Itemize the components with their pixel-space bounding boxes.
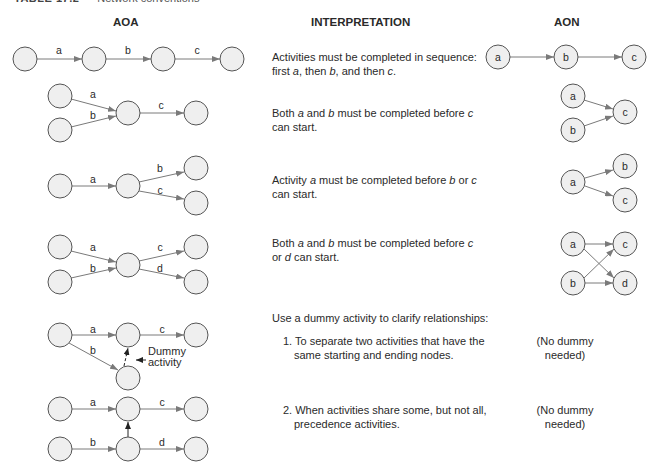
network-diagrams: abc abc abc abcd abc ac bd abc abc abc a…: [0, 0, 667, 476]
svg-text:c: c: [158, 99, 163, 111]
svg-text:b: b: [622, 160, 628, 172]
svg-text:b: b: [90, 109, 96, 121]
svg-text:b: b: [563, 51, 569, 63]
svg-text:a: a: [570, 238, 576, 250]
svg-text:c: c: [622, 194, 627, 206]
svg-text:b: b: [90, 344, 96, 356]
svg-text:a: a: [570, 176, 576, 188]
svg-text:a: a: [56, 44, 62, 56]
svg-text:b: b: [90, 262, 96, 274]
svg-text:c: c: [159, 323, 164, 335]
svg-text:b: b: [570, 124, 576, 136]
dummy-edge-1: [124, 348, 128, 366]
svg-text:a: a: [570, 90, 576, 102]
svg-text:a: a: [90, 88, 96, 100]
svg-text:a: a: [495, 51, 501, 63]
nodes: [13, 45, 646, 461]
svg-text:a: a: [90, 323, 96, 335]
svg-text:a: a: [90, 173, 96, 185]
svg-text:a: a: [90, 396, 96, 408]
svg-text:c: c: [157, 241, 162, 253]
svg-text:c: c: [622, 106, 627, 118]
svg-text:c: c: [157, 184, 162, 196]
svg-text:b: b: [570, 277, 576, 289]
svg-text:c: c: [159, 396, 164, 408]
svg-text:d: d: [157, 262, 163, 274]
svg-text:b: b: [157, 162, 163, 174]
svg-text:a: a: [90, 241, 96, 253]
svg-text:c: c: [622, 238, 627, 250]
svg-text:c: c: [631, 51, 636, 63]
svg-text:d: d: [622, 277, 628, 289]
svg-text:b: b: [90, 436, 96, 448]
svg-text:d: d: [159, 436, 165, 448]
svg-text:b: b: [125, 44, 131, 56]
svg-text:c: c: [194, 44, 199, 56]
